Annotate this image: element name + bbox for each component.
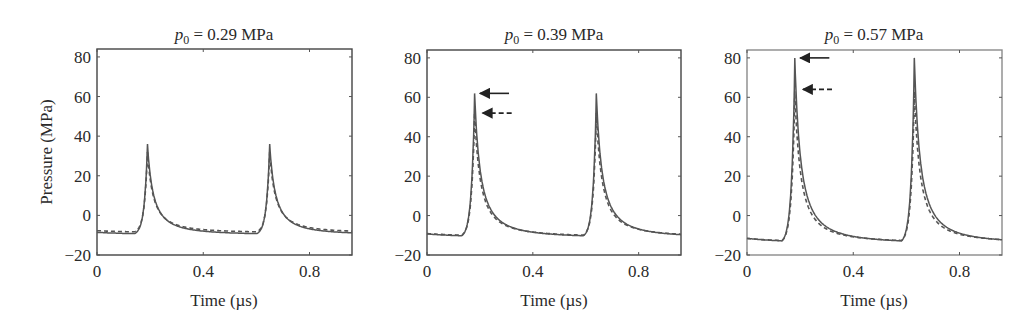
dashed-curve bbox=[747, 91, 1002, 240]
panel-title: p0 = 0.39 MPa bbox=[504, 25, 604, 47]
y-tick-label: 60 bbox=[404, 88, 421, 107]
solid-curve bbox=[97, 144, 352, 234]
x-tick-label: 0.4 bbox=[522, 262, 544, 281]
y-tick-label: 40 bbox=[404, 128, 421, 147]
plot-area-frame bbox=[747, 50, 1002, 255]
panel-title: p0 = 0.57 MPa bbox=[824, 25, 924, 47]
x-tick-label: 0 bbox=[93, 262, 102, 281]
panel-3: p0 = 0.57 MPa Time (µs) −2002040608000.4… bbox=[714, 25, 1002, 310]
x-tick-label: 0.8 bbox=[949, 262, 970, 281]
y-tick-label: −20 bbox=[714, 246, 741, 265]
panel-2: p0 = 0.39 MPa Time (µs) −2002040608000.4… bbox=[394, 25, 681, 310]
y-tick-label: 0 bbox=[413, 207, 422, 226]
y-tick-label: 20 bbox=[724, 167, 741, 186]
y-tick-label: −20 bbox=[394, 246, 421, 265]
y-tick-label: 40 bbox=[724, 128, 741, 147]
dashed-curve bbox=[97, 152, 352, 232]
plot-area-frame bbox=[97, 49, 352, 255]
y-tick-label: 40 bbox=[74, 127, 91, 146]
x-axis-title: Time (µs) bbox=[840, 291, 907, 310]
y-tick-label: 20 bbox=[404, 167, 421, 186]
y-tick-label: −20 bbox=[64, 246, 91, 265]
x-axis-title: Time (µs) bbox=[190, 291, 257, 310]
x-tick-label: 0.4 bbox=[843, 262, 865, 281]
y-tick-label: 0 bbox=[733, 207, 742, 226]
x-axis-title: Time (µs) bbox=[520, 291, 587, 310]
plot-area-frame bbox=[427, 50, 681, 255]
x-tick-label: 0.4 bbox=[193, 262, 215, 281]
y-tick-label: 80 bbox=[404, 49, 421, 68]
pressure-time-figure: Pressure (MPa) p0 = 0.29 MPa Time (µs) −… bbox=[0, 0, 1031, 326]
x-tick-label: 0.8 bbox=[299, 262, 320, 281]
y-axis-title: Pressure (MPa) bbox=[37, 99, 56, 204]
y-tick-label: 80 bbox=[724, 49, 741, 68]
y-tick-label: 60 bbox=[724, 88, 741, 107]
x-tick-label: 0.8 bbox=[628, 262, 649, 281]
solid-curve bbox=[427, 93, 681, 235]
solid-curve bbox=[747, 58, 1002, 241]
y-tick-label: 60 bbox=[74, 88, 91, 107]
y-tick-label: 20 bbox=[74, 167, 91, 186]
y-tick-label: 80 bbox=[74, 48, 91, 67]
dashed-curve bbox=[427, 113, 681, 235]
panel-1: p0 = 0.29 MPa Time (µs) −2002040608000.4… bbox=[64, 25, 352, 310]
panel-title: p0 = 0.29 MPa bbox=[174, 25, 274, 47]
x-tick-label: 0 bbox=[423, 262, 432, 281]
x-tick-label: 0 bbox=[743, 262, 752, 281]
y-tick-label: 0 bbox=[83, 206, 92, 225]
